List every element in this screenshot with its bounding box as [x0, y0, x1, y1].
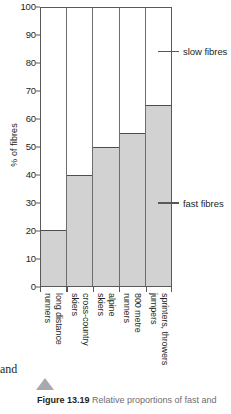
x-axis-label-line: runners	[43, 293, 54, 345]
bar-column	[41, 8, 67, 286]
bar-column	[93, 8, 119, 286]
x-axis-label-line: 800 metre	[132, 293, 143, 333]
bar-segment-fast-fibres	[41, 230, 66, 286]
bar-column	[120, 8, 146, 286]
legend-slow-fibres: slow fibres	[158, 47, 227, 57]
figure-caption: Figure 13.19 Relative proportions of fas…	[37, 394, 231, 406]
x-axis-label: 800 metrerunners	[122, 293, 143, 333]
x-axis-label: long distancerunners	[43, 293, 64, 345]
margin-bleed-text: and	[0, 362, 17, 377]
legend-label-slow: slow fibres	[183, 46, 227, 57]
x-axis-label-line: long distance	[53, 293, 64, 345]
x-axis-label: cross-countryskiers	[69, 293, 90, 346]
legend-fast-fibres: fast fibres	[158, 198, 224, 208]
bar-group	[41, 8, 171, 286]
x-axis-label-line: skiers	[96, 293, 107, 316]
plot-area	[40, 7, 172, 287]
x-axis-label-line: runners	[122, 293, 133, 333]
bar-segment-fast-fibres	[67, 175, 92, 286]
caption-figure-number: Figure 13.19	[37, 395, 90, 405]
caption-body-text: Relative proportions of fast and	[92, 395, 217, 405]
x-axis-label-line: alpine	[106, 293, 117, 316]
x-axis-label-line: cross-country	[80, 293, 91, 346]
triangle-marker-icon	[36, 378, 54, 390]
bar-segment-fast-fibres	[146, 105, 171, 286]
x-axis-label-line: jumpers	[148, 293, 159, 365]
x-axis-label: sprinters, throwersjumpers	[148, 293, 169, 365]
legend-label-fast: fast fibres	[183, 198, 224, 209]
figure-container: % of fibres 0102030405060708090100 long …	[0, 0, 231, 414]
legend-leader-line-slow	[158, 51, 179, 52]
bar-segment-fast-fibres	[93, 147, 118, 286]
figure-caption-block: Figure 13.19 Relative proportions of fas…	[0, 376, 231, 414]
bar-segment-fast-fibres	[120, 133, 145, 286]
x-axis-label-line: skiers	[69, 293, 80, 346]
chart-plot-wrapper: % of fibres 0102030405060708090100 long …	[0, 0, 231, 300]
bar-column	[67, 8, 93, 286]
x-axis-label-line: sprinters, throwers	[159, 293, 170, 365]
legend-leader-line-fast	[158, 202, 179, 203]
x-axis-label: alpineskiers	[96, 293, 117, 316]
